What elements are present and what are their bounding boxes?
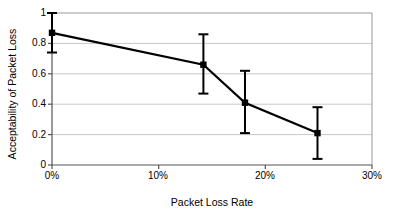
x-tick-marks bbox=[52, 165, 372, 169]
data-point-markers bbox=[49, 30, 321, 137]
plot-frame bbox=[52, 13, 372, 165]
axis-lines bbox=[52, 13, 372, 165]
chart-container: Acceptability of Packet Loss Packet Loss… bbox=[0, 0, 395, 218]
chart-plot-svg bbox=[0, 0, 395, 218]
gridlines bbox=[52, 43, 372, 134]
data-series-line bbox=[52, 33, 318, 133]
